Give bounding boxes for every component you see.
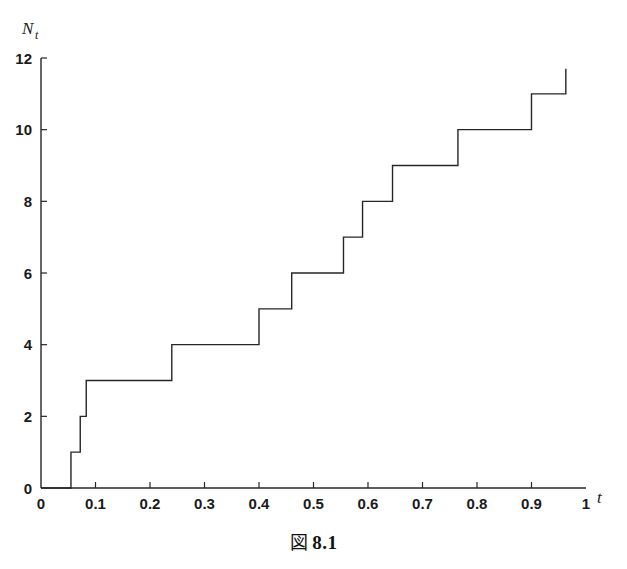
caption-figure-number: 8.1	[312, 532, 337, 553]
x-axis-ticks: 00.10.20.30.40.50.60.70.80.91	[37, 482, 590, 512]
figure-caption: 図8.1	[0, 528, 627, 554]
y-axis-ticks: 024681012	[15, 50, 47, 497]
x-tick-label: 0.1	[85, 495, 106, 512]
x-tick-label: 1	[582, 495, 590, 512]
y-tick-label: 0	[24, 480, 32, 497]
x-tick-label: 0.4	[249, 495, 271, 512]
x-tick-label: 0.6	[358, 495, 379, 512]
y-axis-title-group: N t	[21, 19, 39, 42]
step-line-series	[41, 69, 566, 488]
step-function-plot: 024681012 00.10.20.30.40.50.60.70.80.91 …	[0, 0, 627, 569]
y-tick-label: 10	[15, 121, 32, 138]
x-tick-label: 0.7	[412, 495, 433, 512]
x-tick-label: 0.9	[521, 495, 542, 512]
y-tick-label: 4	[24, 336, 33, 353]
figure-container: 024681012 00.10.20.30.40.50.60.70.80.91 …	[0, 0, 627, 569]
y-tick-label: 8	[24, 193, 32, 210]
x-tick-label: 0	[37, 495, 45, 512]
y-axis-title-subscript: t	[35, 28, 39, 42]
x-tick-label: 0.3	[194, 495, 215, 512]
y-tick-label: 6	[24, 265, 32, 282]
y-tick-label: 2	[24, 408, 32, 425]
y-tick-label: 12	[15, 50, 32, 67]
x-axis-title: t	[597, 488, 603, 507]
x-tick-label: 0.8	[467, 495, 488, 512]
y-axis-title: N	[21, 19, 35, 38]
x-tick-label: 0.2	[140, 495, 161, 512]
x-tick-label: 0.5	[303, 495, 324, 512]
caption-figure-symbol: 図	[290, 532, 309, 553]
